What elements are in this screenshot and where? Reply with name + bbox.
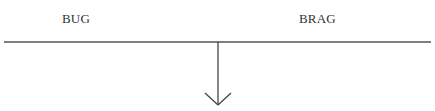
down-arrow-icon xyxy=(205,42,231,105)
diagram-canvas xyxy=(0,0,435,111)
